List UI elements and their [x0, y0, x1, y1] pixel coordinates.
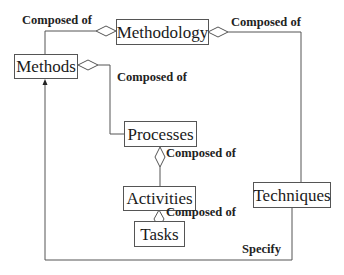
node-processes: Processes: [124, 121, 197, 147]
edge-label-methodology-methods: Composed of: [22, 13, 92, 28]
aggregation-diamond-icon: [208, 27, 228, 37]
node-techniques: Techniques: [253, 182, 331, 208]
edge-label-processes-activities: Composed of: [166, 146, 236, 161]
aggregation-diamond-icon: [78, 60, 98, 70]
edge-label-activities-tasks: Composed of: [166, 205, 236, 220]
edge-methodology-methods: [45, 31, 96, 54]
edge-label-methodology-techniques: Composed of: [231, 15, 301, 30]
arrowhead-icon: [43, 79, 48, 85]
edge-label-methods-processes: Composed of: [117, 70, 187, 85]
aggregation-diamond-icon: [155, 147, 165, 167]
edge-methodology-techniques: [228, 32, 301, 182]
node-methods: Methods: [14, 54, 78, 79]
aggregation-diamond-icon: [96, 26, 116, 36]
node-tasks: Tasks: [134, 221, 185, 247]
node-methodology: Methodology: [116, 19, 209, 45]
edge-label-techniques-methods: Specify: [242, 242, 281, 257]
